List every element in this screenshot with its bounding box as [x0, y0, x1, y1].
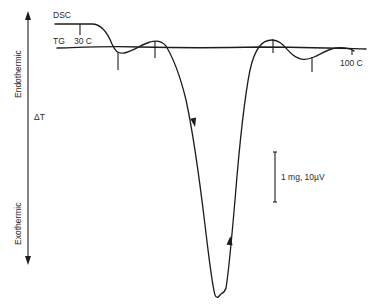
tg-label: TG: [53, 36, 65, 46]
dsc-tg-chart: Endothermic ΔT Exothermic DSC TG 30 C 10…: [0, 0, 374, 306]
tg-curve: [57, 47, 366, 49]
arrow-down-icon: [25, 256, 31, 265]
scale-bar-label: 1 mg, 10µV: [281, 172, 325, 182]
delta-t-label: ΔT: [34, 112, 45, 122]
dsc-label: DSC: [53, 10, 71, 20]
end-temp-label: 100 C: [340, 58, 363, 68]
dsc-curve: [55, 24, 354, 297]
start-temp-label: 30 C: [74, 36, 92, 46]
scale-bar: 1 mg, 10µV: [273, 152, 325, 202]
y-axis: [25, 11, 31, 265]
exothermic-label: Exothermic: [13, 202, 23, 245]
endothermic-label: Endothermic: [13, 50, 23, 98]
arrow-up-icon: [25, 11, 31, 20]
